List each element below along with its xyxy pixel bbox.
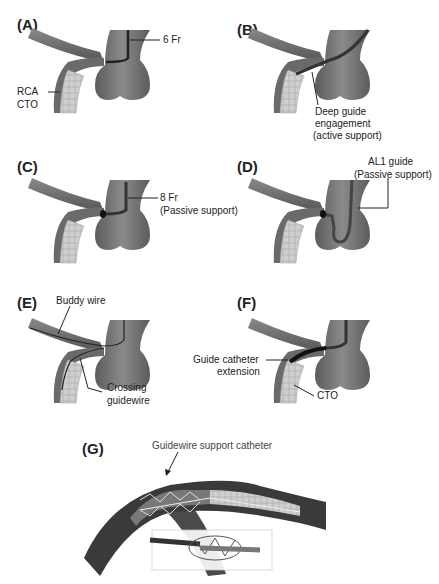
panel-g-illustration <box>0 440 439 584</box>
annotation-extension: extension <box>217 366 260 378</box>
panel-a: (A) 6 Fr RCA CTO <box>0 0 220 140</box>
annotation-guidewire: guidewire <box>107 395 150 407</box>
panel-g: (G) Guidewire support catheter <box>0 440 439 584</box>
annotation-cto-f: CTO <box>317 390 338 402</box>
annotation-active-support: (active support) <box>313 130 382 142</box>
panel-a-illustration <box>0 0 220 140</box>
annotation-passive-support-d: (Passive support) <box>354 169 432 181</box>
annotation-al1-guide: AL1 guide <box>368 156 413 168</box>
panel-e-illustration <box>0 290 220 440</box>
panel-e: (E) Buddy wire Crossing guidewire <box>0 290 220 440</box>
annotation-engagement: engagement <box>315 118 371 130</box>
annotation-cto: CTO <box>17 99 38 111</box>
panel-c-illustration <box>0 150 220 290</box>
panel-b: (B) Deep guide engagement (active suppor… <box>220 0 439 150</box>
annotation-8fr: 8 Fr <box>160 192 178 204</box>
annotation-6fr: 6 Fr <box>163 34 181 46</box>
panel-c: (C) 8 Fr (Passive support) <box>0 150 220 290</box>
annotation-crossing: Crossing <box>107 382 146 394</box>
panel-f: (F) Guide catheter extension CTO <box>220 290 439 440</box>
annotation-guide-catheter: Guide catheter <box>193 354 259 366</box>
annotation-buddy-wire: Buddy wire <box>56 295 105 307</box>
annotation-rca: RCA <box>17 86 38 98</box>
annotation-deep-guide: Deep guide <box>315 106 366 118</box>
panel-d: (D) AL1 guide (Passive support) <box>220 150 439 290</box>
